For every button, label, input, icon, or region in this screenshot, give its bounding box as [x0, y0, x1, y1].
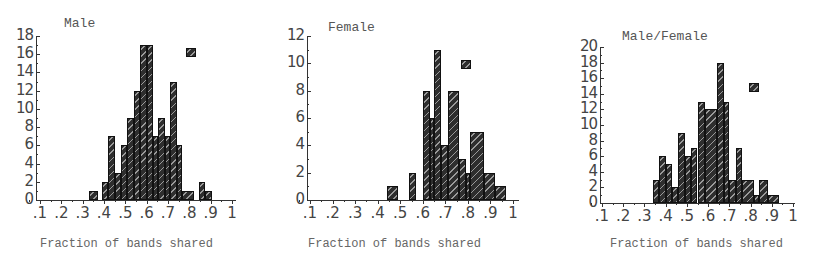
y-minor-tick: [307, 104, 309, 105]
chart-title: Male/Female: [622, 29, 708, 44]
legend-marker-icon: [461, 60, 471, 69]
x-minor-tick: [434, 200, 435, 202]
y-tick-label: 16: [571, 70, 597, 84]
x-minor-tick: [321, 200, 322, 202]
legend-marker-icon: [749, 83, 759, 92]
y-minor-tick: [36, 82, 38, 83]
histogram-bar: [717, 63, 724, 203]
histogram-bar: [698, 102, 705, 203]
y-tick-label: 0: [571, 195, 597, 209]
y-tick-label: 0: [7, 192, 33, 206]
x-tick-label: .1: [303, 205, 317, 221]
y-minor-tick: [36, 173, 38, 174]
histogram-bar: [495, 186, 506, 200]
y-tick: [307, 173, 311, 174]
x-tick-label: .8: [461, 205, 475, 221]
y-tick-label: 12: [7, 83, 33, 97]
x-tick-label: .7: [161, 205, 175, 221]
y-tick: [307, 118, 311, 119]
y-minor-tick: [307, 132, 309, 133]
x-tick-label: .1: [595, 208, 609, 224]
chart-title: Female: [328, 20, 375, 35]
histogram-bar: [387, 186, 398, 200]
x-tick-label: .2: [54, 205, 68, 221]
x-minor-tick: [591, 203, 592, 205]
y-tick: [36, 164, 40, 165]
x-tick-label: .2: [616, 208, 630, 224]
y-tick-label: 4: [571, 164, 597, 178]
y-tick-label: 16: [7, 46, 33, 60]
y-tick-label: 10: [571, 117, 597, 131]
x-axis-label: Fraction of bands shared: [610, 237, 783, 251]
y-tick: [600, 94, 604, 95]
y-tick-label: 18: [571, 55, 597, 69]
y-tick-label: 12: [278, 28, 304, 42]
y-minor-tick: [307, 159, 309, 160]
x-tick-label: .9: [765, 208, 779, 224]
x-tick-label: .4: [371, 205, 385, 221]
x-minor-tick: [479, 200, 480, 202]
histogram-bar: [470, 132, 484, 200]
y-minor-tick: [600, 133, 602, 134]
x-tick-label: .1: [33, 205, 47, 221]
y-tick-label: 8: [278, 83, 304, 97]
histogram-bar: [89, 191, 98, 200]
y-minor-tick: [600, 148, 602, 149]
x-tick-label: .2: [325, 205, 339, 221]
y-minor-tick: [307, 77, 309, 78]
y-tick-label: 2: [7, 174, 33, 188]
y-minor-tick: [600, 55, 602, 56]
y-tick-label: 6: [7, 137, 33, 151]
histogram-bar: [459, 159, 466, 200]
y-tick-label: 8: [571, 133, 597, 147]
y-tick: [600, 187, 604, 188]
y-tick: [307, 91, 311, 92]
y-tick: [600, 156, 604, 157]
y-tick: [36, 127, 40, 128]
y-tick: [600, 125, 604, 126]
x-minor-tick: [299, 200, 300, 202]
x-minor-tick: [761, 203, 762, 205]
y-tick-label: 8: [7, 119, 33, 133]
x-tick-label: .9: [204, 205, 218, 221]
y-tick: [600, 141, 604, 142]
y-tick-label: 14: [7, 64, 33, 78]
x-tick-label: .7: [438, 205, 452, 221]
y-minor-tick: [36, 191, 38, 192]
histogram-bar: [434, 50, 441, 200]
x-tick-label: .5: [118, 205, 132, 221]
y-minor-tick: [600, 195, 602, 196]
x-tick-label: .4: [97, 205, 111, 221]
y-minor-tick: [36, 118, 38, 119]
histogram-bar: [484, 173, 495, 200]
y-minor-tick: [600, 164, 602, 165]
y-tick: [600, 172, 604, 173]
x-minor-tick: [676, 203, 677, 205]
x-minor-tick: [221, 200, 222, 202]
x-tick-label: .4: [659, 208, 673, 224]
histogram-bar: [205, 191, 211, 200]
x-tick-label: .6: [416, 205, 430, 221]
histogram-bar: [759, 180, 767, 203]
histogram-bar: [423, 91, 430, 200]
x-tick-label: .3: [348, 205, 362, 221]
x-minor-tick: [29, 200, 30, 202]
y-minor-tick: [36, 45, 38, 46]
y-tick: [307, 63, 311, 64]
x-tick-label: .8: [182, 205, 196, 221]
y-tick: [36, 109, 40, 110]
y-tick-label: 0: [278, 192, 304, 206]
histogram-bar: [742, 180, 754, 203]
y-tick-label: 18: [7, 28, 33, 42]
y-tick-label: 10: [7, 101, 33, 115]
histogram-bar: [448, 91, 459, 200]
y-minor-tick: [600, 102, 602, 103]
y-tick-label: 20: [571, 39, 597, 53]
y-minor-tick: [36, 154, 38, 155]
x-minor-tick: [72, 200, 73, 202]
x-minor-tick: [366, 200, 367, 202]
x-tick-label: 1: [508, 205, 518, 221]
histogram-bar: [409, 173, 416, 200]
histogram-bar: [441, 145, 448, 200]
x-minor-tick: [457, 200, 458, 202]
